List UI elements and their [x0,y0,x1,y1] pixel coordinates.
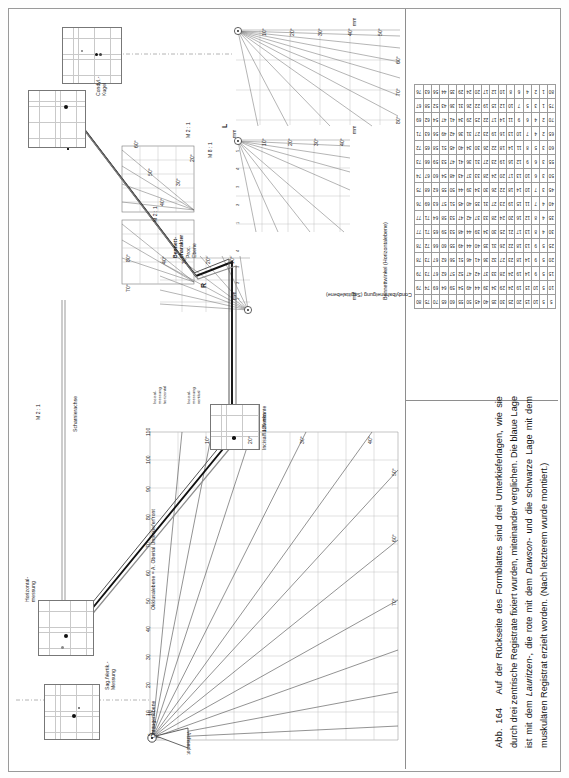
table-cell: 49 [456,239,464,253]
table-cell: 33 [473,169,481,183]
table-cell: 36 [465,155,473,169]
table-cell: 31 [481,197,489,211]
hinge-axis-lines [62,300,65,618]
grid-condyl-upper-left-main [28,90,86,148]
tick-deg-mid-10: 10° [262,138,268,146]
table-row: 5536912161923273136414753596673 [415,155,556,169]
table-cell: 80 [415,295,424,309]
table-cell: 29 [456,85,464,99]
table-row: 751357101215192226313643525867 [415,99,556,113]
table-cell: 34 [473,183,481,197]
table-cell: 65 [440,295,448,309]
table-cell: 12 [515,155,523,169]
table-cell: 77 [415,225,424,239]
table-cell: 13 [515,169,523,183]
label-120mm: 120 mm [262,413,268,432]
tick-deg-upper-80: 80° [396,116,402,124]
table-cell: 13 [523,239,531,253]
table-cell: 28 [481,169,489,183]
table-cell: 51 [448,197,456,211]
table-row: 45371014182226303439445055626875 [415,183,556,197]
table-cell: 18 [507,183,515,197]
table-cell: 16 [515,211,523,225]
table-row-header: 75 [547,99,555,113]
table-cell: 66 [423,155,431,169]
table-cell: 69 [415,113,424,127]
table-cell: 10 [523,169,531,183]
table-cell: 45 [448,141,456,155]
table-cell: 4 [540,197,547,211]
table-cell: 20 [498,169,506,183]
table-cell: 52 [431,99,439,113]
table-cell: 36 [481,253,489,267]
table-cell: 57 [448,267,456,281]
table-row: 35481216202428333742475358647177 [415,211,556,225]
table-cell: 58 [423,99,431,113]
tick-deg-upper-40: 40° [348,28,354,36]
tick-deg-mid-30: 30° [314,138,320,146]
table-cell: 49 [440,127,448,141]
table-cell: 75 [415,183,424,197]
table-cell: 14 [507,141,515,155]
table-cell: 6 [532,155,540,169]
tick-deg-lower-30: 30° [300,436,306,444]
table-cell: 76 [415,85,424,99]
table-cell: 54 [456,281,464,295]
table-cell: 21 [507,225,515,239]
table-cell: 54 [431,113,439,127]
table-cell: 46 [465,253,473,267]
table-cell: 40 [456,141,464,155]
table-row-header: 50 [547,169,555,183]
table-cell: 23 [490,155,498,169]
table-cell: 55 [440,183,448,197]
tick-mm-s3: 3 [236,186,241,188]
tick-mm-lower-100: 100 [146,455,152,464]
table-cell: 78 [415,239,424,253]
column-divider [405,9,406,769]
table-cell: 22 [473,99,481,113]
table-cell: 39 [481,281,489,295]
table-cell: 65 [431,225,439,239]
table-cell: 15 [523,295,531,309]
tick-deg-lower-40: 40° [368,436,374,444]
label-mm-mid: mm [232,129,238,138]
table-cell: 35 [448,85,456,99]
table-cell: 60 [448,295,456,309]
label-achsenlot: Achsenlot [185,732,191,755]
figure-page: Condyl.- Kugel mm mm mm mm mm L R M 2 : … [0,0,569,778]
table-cell: 65 [423,141,431,155]
table-cell: 44 [473,281,481,295]
table-cell: 72 [423,239,431,253]
table-cell: 28 [490,211,498,225]
table-cell: 25 [507,295,515,309]
table-cell: 26 [498,239,506,253]
table-cell: 26 [481,141,489,155]
tick-deg-r-40: 40° [162,256,168,264]
table-cell: 66 [431,239,439,253]
table-cell: 53 [448,211,456,225]
table-cell: 73 [423,253,431,267]
table-row: 55101520253035404550556065707580 [415,295,556,309]
label-scharnierachse: Scharnierachse [73,396,79,432]
table-cell: 40 [465,197,473,211]
tick-deg-sm-80: 80° [126,254,132,262]
table-row-header: 10 [547,281,555,295]
table-cell: 25 [473,113,481,127]
table-cell: 67 [415,99,424,113]
table-row: 105101519242934394449545964697479 [415,281,556,295]
tick-mm-s4: 4 [236,168,241,170]
table-cell: 55 [456,295,464,309]
table-cell: 3 [540,169,547,183]
table-row-header: 80 [547,85,555,99]
table-cell: 40 [481,295,489,309]
table-cell: 14 [498,113,506,127]
table-cell: 14 [515,183,523,197]
tick-deg-lower-60: 60° [392,534,398,542]
table-cell: 19 [507,197,515,211]
table-cell: 62 [440,253,448,267]
table-cell: 67 [431,253,439,267]
label-incisalmessung-horizontal: Incisal- messung horizontal [152,386,168,404]
table-cell: 17 [515,225,523,239]
table-cell: 12 [498,99,506,113]
table-cell: 10 [498,85,506,99]
